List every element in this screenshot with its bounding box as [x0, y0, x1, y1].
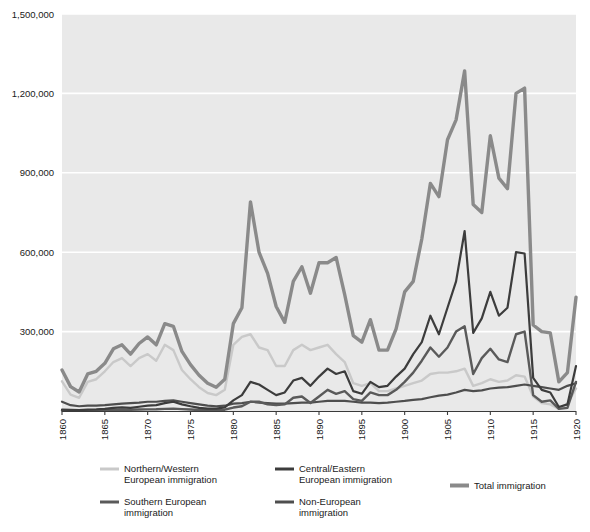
- x-tick-label-group: 1890: [314, 419, 325, 440]
- x-tick-label: 1875: [185, 419, 196, 440]
- x-tick-label-group: 1875: [185, 419, 196, 440]
- x-tick-label: 1920: [571, 419, 582, 440]
- x-tick-label: 1870: [142, 419, 153, 440]
- x-tick-label: 1910: [485, 419, 496, 440]
- x-tick-label: 1885: [271, 419, 282, 440]
- legend-label-line1: Northern/Western: [124, 463, 199, 474]
- plot-area-background: [62, 14, 576, 411]
- x-tick-label-group: 1865: [99, 419, 110, 440]
- y-tick-label: 900,000: [20, 167, 54, 178]
- y-tick-label: 1,200,000: [12, 88, 54, 99]
- legend-label-line1: Central/Eastern: [299, 463, 365, 474]
- x-tick-label: 1905: [442, 419, 453, 440]
- x-tick-label-group: 1900: [399, 419, 410, 440]
- x-tick-label: 1915: [528, 419, 539, 440]
- x-tick-label-group: 1915: [528, 419, 539, 440]
- x-tick-label-group: 1910: [485, 419, 496, 440]
- y-tick-label: 600,000: [20, 247, 54, 258]
- x-tick-label-group: 1880: [228, 419, 239, 440]
- y-tick-label: 300,000: [20, 326, 54, 337]
- legend-label-line2: European immigration: [124, 474, 217, 485]
- x-tick-label-group: 1870: [142, 419, 153, 440]
- legend-label-line1: Non-European: [299, 496, 361, 507]
- x-tick-label: 1860: [57, 419, 68, 440]
- legend-label-line1: Total immigration: [474, 480, 546, 491]
- legend-label-line1: Southern European: [124, 496, 206, 507]
- x-tick-label: 1880: [228, 419, 239, 440]
- x-tick-label-group: 1885: [271, 419, 282, 440]
- x-tick-label-group: 1920: [571, 419, 582, 440]
- x-tick-label: 1895: [356, 419, 367, 440]
- x-tick-label: 1865: [99, 419, 110, 440]
- immigration-line-chart: 300,000600,000900,0001,200,0001,500,000 …: [0, 0, 590, 532]
- x-tick-label-group: 1860: [57, 419, 68, 440]
- x-tick-label: 1890: [314, 419, 325, 440]
- y-tick-label: 1,500,000: [12, 9, 54, 20]
- x-tick-label: 1900: [399, 419, 410, 440]
- legend-label-line2: immigration: [124, 507, 173, 518]
- legend-label-line2: European immigration: [299, 474, 392, 485]
- legend-label-line2: immigration: [299, 507, 348, 518]
- x-tick-label-group: 1895: [356, 419, 367, 440]
- x-tick-label-group: 1905: [442, 419, 453, 440]
